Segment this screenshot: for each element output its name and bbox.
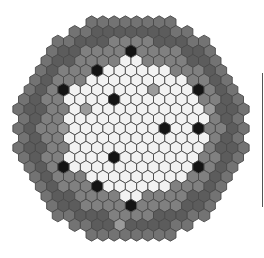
hex-cell bbox=[131, 228, 142, 241]
hexagonal-core-map bbox=[0, 0, 264, 258]
hex-cell bbox=[154, 228, 165, 241]
hex-cell bbox=[199, 209, 210, 222]
hex-cell bbox=[109, 228, 120, 241]
hex-cell bbox=[165, 228, 176, 241]
hex-cell bbox=[86, 228, 97, 241]
vertical-edge-line bbox=[262, 73, 263, 207]
hex-cell bbox=[142, 228, 153, 241]
hex-cell bbox=[120, 228, 131, 241]
hex-cell bbox=[52, 209, 63, 222]
hex-cell bbox=[182, 219, 193, 232]
hex-cell bbox=[69, 219, 80, 232]
hex-cell bbox=[97, 228, 108, 241]
